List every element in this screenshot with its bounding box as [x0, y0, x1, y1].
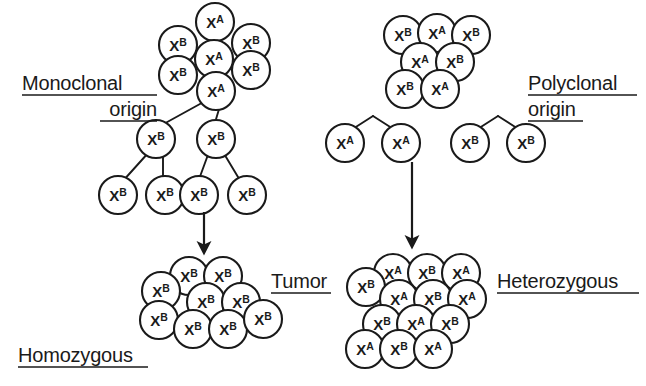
allele-superscript: B [428, 264, 436, 276]
allele-superscript: B [217, 130, 225, 142]
allele-base: X [242, 62, 252, 79]
allele-superscript: B [162, 282, 170, 294]
allele-base: X [458, 291, 468, 308]
allele-superscript: A [400, 290, 408, 302]
allele-base: X [390, 341, 400, 358]
allele-base: X [214, 268, 224, 285]
cell: XA [346, 330, 384, 368]
allele-base: X [390, 291, 400, 308]
cell: XB [99, 176, 137, 214]
allele-base: X [461, 135, 471, 152]
allele-superscript: A [462, 264, 470, 276]
cell: XB [174, 310, 212, 348]
allele-superscript: A [434, 340, 442, 352]
allele-superscript: A [394, 264, 402, 276]
cell: XB [180, 176, 218, 214]
allele-base: X [197, 294, 207, 311]
allele-superscript: A [217, 82, 225, 94]
allele-base: X [418, 265, 428, 282]
allele-base: X [254, 311, 264, 328]
allele-superscript: B [404, 26, 412, 38]
allele-superscript: B [242, 293, 250, 305]
allele-base: X [394, 27, 404, 44]
allele-base: X [424, 341, 434, 358]
polyclonal-lineage-tree-right: XB XB [451, 124, 545, 162]
allele-superscript: B [434, 290, 442, 302]
normal-tissue-cluster-right: XB XA XB XA XB XB [384, 14, 490, 108]
allele-superscript: B [400, 340, 408, 352]
allele-base: X [238, 187, 248, 204]
allele-base: X [411, 54, 421, 71]
cell: XA [326, 124, 364, 162]
allele-superscript: B [252, 34, 260, 46]
polyclonal-origin-line1: Polyclonal [528, 72, 617, 94]
label-heterozygous: Heterozygous [497, 270, 639, 293]
allele-superscript: B [229, 320, 237, 332]
cell: XB [209, 310, 247, 348]
allele-superscript: B [252, 61, 260, 73]
allele-superscript: A [417, 315, 425, 327]
allele-base: X [392, 135, 402, 152]
allele-base: X [219, 321, 229, 338]
allele-base: X [373, 316, 383, 333]
allele-base: X [452, 265, 462, 282]
allele-superscript: B [264, 310, 272, 322]
allele-superscript: B [471, 134, 479, 146]
allele-base: X [336, 135, 346, 152]
allele-base: X [396, 81, 406, 98]
heterozygous-tumor-cluster: XA XB XA XB XA XB [346, 254, 486, 368]
allele-base: X [180, 268, 190, 285]
allele-superscript: B [194, 320, 202, 332]
allele-base: X [441, 316, 451, 333]
cell: XB [197, 120, 235, 158]
allele-base: X [428, 25, 438, 42]
allele-superscript: B [224, 267, 232, 279]
label-homozygous: Homozygous [18, 344, 148, 367]
allele-base: X [207, 83, 217, 100]
diagram-canvas: XA XB XB XA XB XB [0, 0, 646, 386]
cell: XB [137, 120, 175, 158]
cell: XB [386, 70, 424, 108]
polyclonal-origin-line2: origin [528, 98, 576, 120]
allele-superscript: A [441, 80, 449, 92]
cell: XB [451, 124, 489, 162]
allele-base: X [190, 187, 200, 204]
allele-base: X [384, 265, 394, 282]
normal-tissue-cluster-left: XA XB XB XA XB XB [159, 3, 270, 110]
monoclonal-origin-line1: Monoclonal [22, 72, 122, 94]
cell: XA [382, 124, 420, 162]
allele-base: X [156, 187, 166, 204]
allele-base: X [205, 51, 215, 68]
allele-base: X [356, 341, 366, 358]
allele-base: X [407, 316, 417, 333]
cell: XB [232, 51, 270, 89]
allele-base: X [517, 135, 527, 152]
allele-superscript: B [456, 53, 464, 65]
cell: XB [244, 300, 282, 338]
allele-superscript: B [527, 134, 535, 146]
allele-superscript: B [248, 186, 256, 198]
allele-base: X [446, 54, 456, 71]
allele-superscript: B [160, 311, 168, 323]
allele-base: X [152, 283, 162, 300]
monoclonal-origin-line2: origin [109, 98, 157, 120]
allele-base: X [169, 67, 179, 84]
cell: XB [159, 56, 197, 94]
allele-base: X [424, 291, 434, 308]
allele-superscript: B [166, 186, 174, 198]
allele-base: X [357, 279, 367, 296]
polyclonal-lineage-tree-left: XA XA [326, 124, 420, 162]
allele-base: X [232, 294, 242, 311]
allele-superscript: A [346, 134, 354, 146]
allele-superscript: A [216, 13, 224, 25]
allele-superscript: B [383, 315, 391, 327]
allele-superscript: B [451, 315, 459, 327]
allele-base: X [169, 37, 179, 54]
allele-base: X [242, 35, 252, 52]
allele-superscript: B [207, 293, 215, 305]
homozygous-tumor-cluster: XB XB XB XB XB XB [140, 257, 282, 348]
homozygous-label: Homozygous [18, 344, 133, 366]
allele-base: X [207, 131, 217, 148]
label-tumor: Tumor [271, 270, 331, 293]
allele-base: X [147, 131, 157, 148]
